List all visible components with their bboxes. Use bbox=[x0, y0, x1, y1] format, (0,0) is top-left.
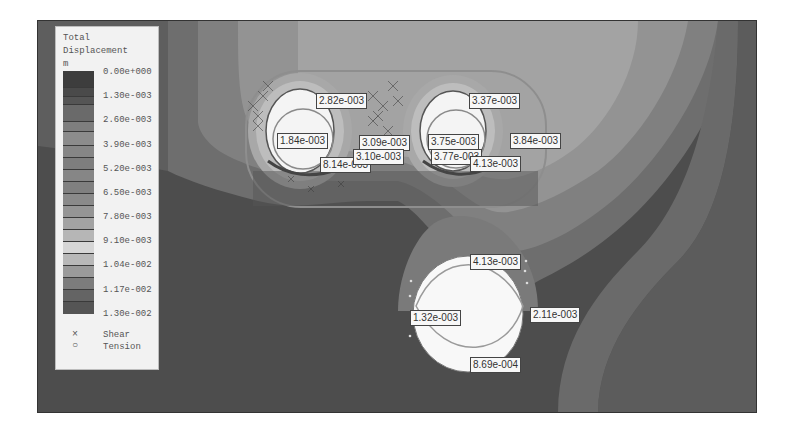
color-swatch bbox=[63, 206, 94, 218]
legend-tick: 9.10e-003 bbox=[103, 236, 152, 246]
legend-tick: 5.20e-003 bbox=[103, 164, 152, 174]
color-swatch bbox=[63, 122, 94, 132]
legend-tick: 2.60e-003 bbox=[103, 115, 152, 125]
displacement-legend: Total Displacement m 0.00e+000 1.30e-003 bbox=[55, 26, 159, 370]
color-swatch bbox=[63, 254, 94, 266]
displacement-label: 1.32e-003 bbox=[410, 310, 461, 326]
color-swatch bbox=[63, 290, 94, 302]
legend-tick: 1.30e-003 bbox=[103, 91, 152, 101]
color-swatch bbox=[63, 302, 94, 314]
color-swatch bbox=[63, 230, 94, 242]
color-swatch bbox=[63, 97, 94, 105]
contour-plot-frame: Total Displacement m 0.00e+000 1.30e-003 bbox=[37, 20, 757, 413]
tension-label: Tension bbox=[103, 342, 141, 352]
color-swatch bbox=[63, 146, 94, 158]
shear-label: Shear bbox=[103, 330, 130, 340]
displacement-label: 8.69e-004 bbox=[470, 357, 521, 373]
legend-tick: 0.00e+000 bbox=[103, 67, 152, 77]
displacement-label: 2.82e-003 bbox=[316, 93, 367, 109]
displacement-label: 3.75e-003 bbox=[428, 134, 479, 150]
legend-tick: 7.80e-003 bbox=[103, 212, 152, 222]
legend-tick: 1.04e-002 bbox=[103, 260, 152, 270]
color-swatch bbox=[63, 71, 94, 88]
legend-tick: 1.17e-002 bbox=[103, 285, 152, 295]
legend-title: Total Displacement m bbox=[63, 32, 128, 71]
displacement-label: 4.13e-003 bbox=[470, 156, 521, 172]
color-swatch bbox=[63, 194, 94, 206]
color-swatch bbox=[63, 88, 94, 97]
displacement-label: 3.10e-003 bbox=[353, 149, 404, 165]
color-swatch bbox=[63, 105, 94, 122]
color-swatch bbox=[63, 182, 94, 194]
legend-tick: 3.90e-003 bbox=[103, 140, 152, 150]
color-swatch bbox=[63, 278, 94, 290]
color-scale bbox=[63, 71, 94, 314]
displacement-label: 2.11e-003 bbox=[530, 307, 580, 323]
legend-tick: 1.30e-002 bbox=[103, 309, 152, 319]
color-swatch bbox=[63, 170, 94, 182]
color-swatch bbox=[63, 266, 94, 278]
displacement-label: 1.84e-003 bbox=[277, 133, 328, 149]
displacement-label: 3.84e-003 bbox=[510, 133, 561, 149]
shear-icon: × bbox=[72, 329, 78, 340]
color-swatch bbox=[63, 218, 94, 230]
color-swatch bbox=[63, 132, 94, 146]
legend-tick: 6.50e-003 bbox=[103, 188, 152, 198]
color-swatch bbox=[63, 158, 94, 170]
color-swatch bbox=[63, 242, 94, 254]
displacement-label: 3.37e-003 bbox=[469, 93, 520, 109]
displacement-label: 4.13e-003 bbox=[470, 254, 521, 270]
tension-icon: ○ bbox=[72, 340, 78, 351]
